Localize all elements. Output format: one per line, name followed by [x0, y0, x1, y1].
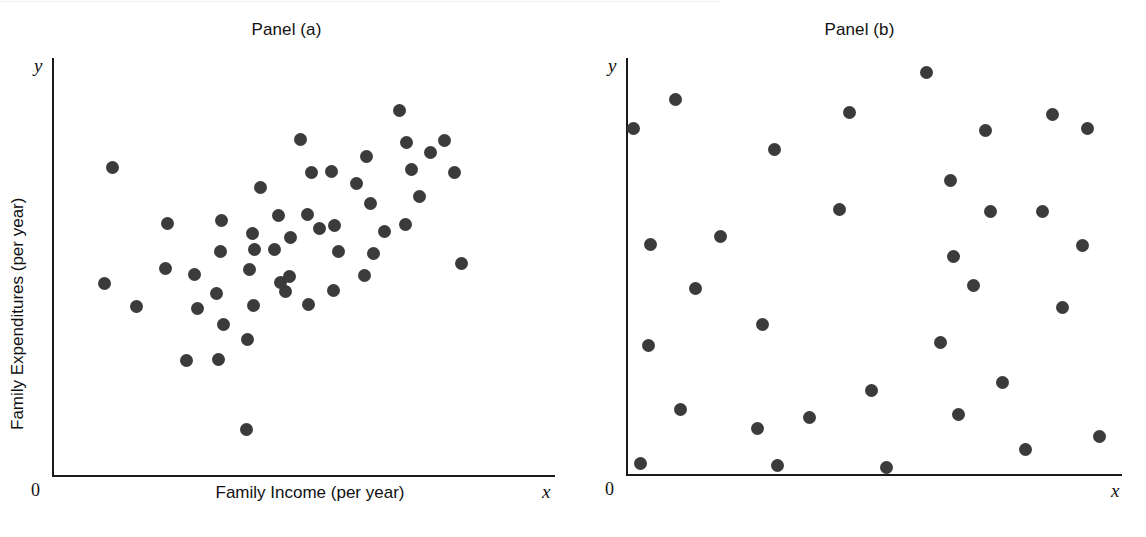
panel-a-y-axis-label: Family Expenditures (per year)	[8, 198, 28, 430]
data-point	[332, 245, 345, 258]
data-point	[642, 339, 655, 352]
data-point	[413, 190, 426, 203]
data-point	[455, 257, 468, 270]
data-point	[283, 270, 296, 283]
data-point	[364, 197, 377, 210]
data-point	[714, 230, 727, 243]
data-point	[448, 166, 461, 179]
data-point	[325, 165, 338, 178]
data-point	[880, 461, 893, 474]
data-point	[327, 284, 340, 297]
data-point	[378, 225, 391, 238]
data-point	[191, 302, 204, 315]
data-point	[328, 219, 341, 232]
panel-b-plot-area	[626, 58, 1122, 474]
data-point	[669, 93, 682, 106]
data-point	[843, 106, 856, 119]
panel-a-title: Panel (a)	[0, 20, 573, 40]
panel-a-x-axis-letter: x	[542, 482, 550, 501]
data-point	[984, 205, 997, 218]
panel-b-y-axis-letter: y	[608, 56, 616, 75]
data-point	[803, 411, 816, 424]
data-point	[751, 422, 764, 435]
panel-b-x-axis-line	[626, 474, 1122, 476]
data-point	[399, 218, 412, 231]
data-point	[756, 318, 769, 331]
data-point	[360, 150, 373, 163]
data-point	[1036, 205, 1049, 218]
data-point	[674, 403, 687, 416]
data-point	[313, 222, 326, 235]
panel-a-plot-area	[52, 58, 555, 475]
data-point	[644, 238, 657, 251]
data-point	[424, 146, 437, 159]
data-point	[1019, 443, 1032, 456]
panel-a-x-axis-line	[52, 475, 555, 477]
data-point	[272, 209, 285, 222]
data-point	[393, 104, 406, 117]
data-point	[1081, 122, 1094, 135]
data-point	[689, 282, 702, 295]
data-point	[979, 124, 992, 137]
scatterplot-figure: Panel (a) y x 0 Family Income (per year)…	[0, 0, 1146, 537]
data-point	[161, 217, 174, 230]
data-point	[350, 177, 363, 190]
data-point	[180, 354, 193, 367]
data-point	[967, 279, 980, 292]
panel-b-x-axis-letter: x	[1111, 481, 1119, 500]
data-point	[243, 263, 256, 276]
data-point	[1076, 239, 1089, 252]
data-point	[367, 247, 380, 260]
data-point	[214, 245, 227, 258]
data-point	[210, 287, 223, 300]
data-point	[634, 457, 647, 470]
panel-b-title: Panel (b)	[573, 20, 1146, 40]
panel-b-origin-label: 0	[605, 480, 614, 498]
panel-a-x-axis-label: Family Income (per year)	[160, 483, 460, 503]
data-point	[217, 318, 230, 331]
data-point	[248, 243, 261, 256]
data-point	[952, 408, 965, 421]
data-point	[159, 262, 172, 275]
data-point	[358, 269, 371, 282]
data-point	[212, 353, 225, 366]
data-point	[294, 133, 307, 146]
data-point	[254, 181, 267, 194]
data-point	[1056, 301, 1069, 314]
data-point	[305, 166, 318, 179]
data-point	[279, 285, 292, 298]
data-point	[106, 161, 119, 174]
data-point	[768, 143, 781, 156]
data-point	[302, 298, 315, 311]
data-point	[934, 336, 947, 349]
data-point	[301, 208, 314, 221]
data-point	[1093, 430, 1106, 443]
data-point	[98, 277, 111, 290]
panel-a-y-axis-letter: y	[34, 56, 42, 75]
data-point	[920, 66, 933, 79]
data-point	[188, 268, 201, 281]
data-point	[947, 250, 960, 263]
data-point	[405, 163, 418, 176]
data-point	[240, 423, 253, 436]
data-point	[944, 174, 957, 187]
data-point	[246, 227, 259, 240]
data-point	[438, 134, 451, 147]
data-point	[1046, 108, 1059, 121]
data-point	[627, 122, 640, 135]
data-point	[241, 333, 254, 346]
data-point	[268, 243, 281, 256]
data-point	[247, 299, 260, 312]
data-point	[400, 136, 413, 149]
data-point	[833, 203, 846, 216]
data-point	[865, 384, 878, 397]
data-point	[215, 214, 228, 227]
data-point	[284, 231, 297, 244]
data-point	[130, 300, 143, 313]
data-point	[771, 459, 784, 472]
data-point	[996, 376, 1009, 389]
panel-a-origin-label: 0	[31, 481, 40, 499]
panel-a: Panel (a) y x 0 Family Income (per year)…	[0, 0, 573, 537]
panel-b: Panel (b) y x 0	[573, 0, 1146, 537]
